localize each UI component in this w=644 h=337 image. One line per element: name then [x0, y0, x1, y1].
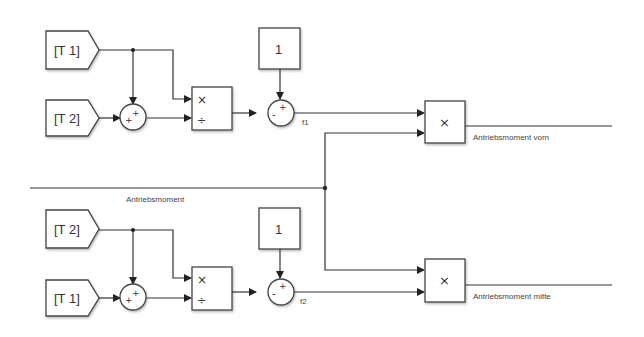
top-branch: [T 1] [T 2] + + × ÷ 1: [46, 28, 424, 136]
constant-value: 1: [275, 222, 282, 237]
signal-label-f2: f2: [300, 297, 307, 306]
minus-sign: -: [272, 288, 276, 299]
junction-dot: [131, 228, 135, 232]
junction-dot: [131, 48, 135, 52]
divide-symbol: ÷: [197, 294, 206, 307]
plus-sign: +: [279, 281, 287, 291]
from-block-t1-bottom[interactable]: [T 1]: [46, 280, 99, 316]
subtract-block-top[interactable]: - +: [268, 100, 294, 126]
sum-sign-top: +: [132, 288, 140, 298]
signal-label-f1: f1: [302, 118, 309, 127]
constant-block-top[interactable]: 1: [259, 28, 300, 69]
sum-sign-top: +: [132, 108, 140, 118]
multiply-symbol: ×: [197, 93, 207, 107]
sum-block-bottom[interactable]: + +: [120, 284, 146, 310]
from-tag-label: [T 2]: [54, 222, 80, 237]
wire-t2-to-product: [99, 230, 191, 278]
multiply-symbol: ×: [439, 273, 450, 288]
signal-label-antriebsmoment-mitte: Antriebsmoment mitte: [473, 292, 551, 301]
minus-sign: -: [272, 109, 276, 120]
from-tag-label: [T 1]: [54, 291, 80, 306]
bottom-branch: [T 2] [T 1] + + × ÷ 1 - +: [46, 208, 424, 316]
from-tag-label: [T 1]: [54, 43, 80, 58]
constant-block-bottom[interactable]: 1: [259, 208, 300, 249]
block-diagram-canvas: [T 1] [T 2] + + × ÷ 1: [0, 0, 644, 337]
signal-label-antriebsmoment-vorn: Antriebsmoment vorn: [473, 133, 549, 142]
divide-block-top[interactable]: × ÷: [192, 87, 232, 130]
from-tag-label: [T 2]: [54, 111, 80, 126]
wire-t1-to-product: [99, 50, 191, 99]
wire-to-product-middle: [325, 188, 424, 270]
product-block-middle[interactable]: ×: [425, 259, 465, 302]
constant-value: 1: [275, 42, 282, 57]
subtract-block-bottom[interactable]: - +: [268, 279, 294, 305]
from-block-t1-top[interactable]: [T 1]: [46, 31, 99, 69]
multiply-symbol: ×: [197, 273, 207, 287]
main-signal: Antriebsmoment: [30, 133, 424, 270]
divide-block-bottom[interactable]: × ÷: [192, 267, 232, 310]
from-block-t2-top[interactable]: [T 2]: [46, 100, 99, 136]
plus-sign: +: [279, 102, 287, 112]
from-block-t2-bottom[interactable]: [T 2]: [46, 210, 99, 248]
wire-to-product-front: [325, 133, 424, 188]
sum-block-top[interactable]: + +: [120, 104, 146, 130]
multiply-symbol: ×: [439, 115, 450, 130]
signal-label-antriebsmoment: Antriebsmoment: [126, 195, 185, 204]
product-block-front[interactable]: ×: [425, 101, 465, 143]
divide-symbol: ÷: [197, 114, 206, 127]
